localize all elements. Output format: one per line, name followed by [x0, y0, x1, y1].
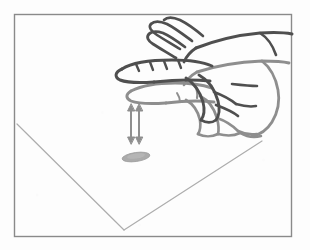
hand-gesture-sketch [0, 0, 310, 250]
paper-background [0, 0, 310, 250]
sketch-canvas: Hand gesture sketch: vertical hover moti… [0, 0, 310, 250]
